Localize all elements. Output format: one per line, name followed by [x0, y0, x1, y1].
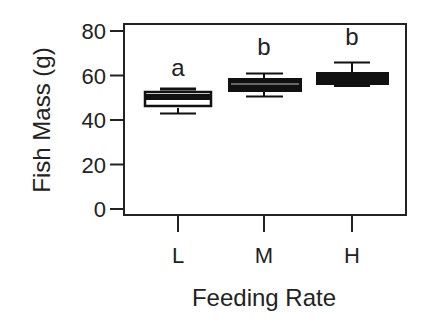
x-tick-labels: L M H — [172, 243, 360, 268]
letter-H: b — [345, 23, 358, 50]
y-tick-label: 60 — [82, 64, 106, 89]
y-tick-labels: 0 20 40 60 80 — [82, 19, 106, 222]
y-tick-label: 20 — [82, 153, 106, 178]
letter-M: b — [257, 33, 270, 60]
x-tick-label: H — [344, 243, 360, 268]
y-tick-label: 80 — [82, 19, 106, 44]
letter-L: a — [171, 54, 185, 81]
y-axis — [110, 31, 124, 209]
x-axis — [178, 215, 352, 232]
y-tick-label: 0 — [94, 197, 106, 222]
x-tick-label: L — [172, 243, 184, 268]
boxplot-chart: 0 20 40 60 80 L M H Feeding Rate Fish Ma… — [0, 0, 425, 333]
y-axis-title: Fish Mass (g) — [28, 47, 55, 192]
x-tick-label: M — [255, 243, 273, 268]
y-tick-label: 40 — [82, 108, 106, 133]
x-axis-title: Feeding Rate — [192, 284, 336, 311]
